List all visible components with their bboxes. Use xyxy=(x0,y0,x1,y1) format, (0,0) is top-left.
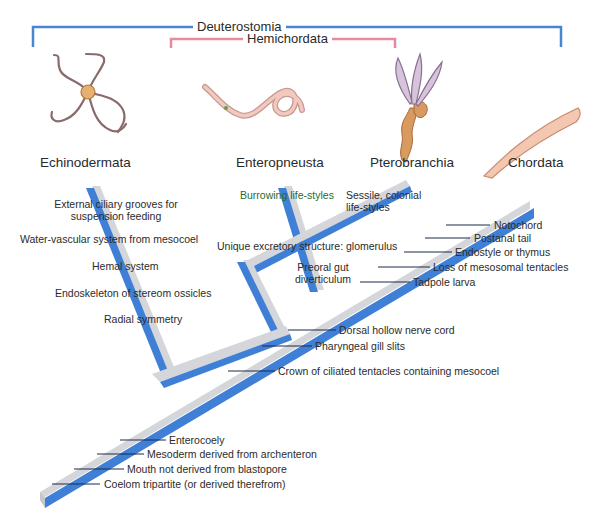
char-water-vascular-system: Water-vascular system from mesocoel xyxy=(20,233,198,245)
char-loss-mesosomal-tentacles: Loss of mesosomal tentacles xyxy=(433,261,568,273)
char-mesoderm-archenteron: Mesoderm derived from archenteron xyxy=(147,448,317,460)
deuterostome-cladogram: Deuterostomia Hemichordata Echinodermata… xyxy=(0,0,594,521)
taxon-chordata: Chordata xyxy=(508,155,564,170)
taxon-pterobranchia: Pterobranchia xyxy=(370,155,454,170)
hemichordata-stem xyxy=(237,260,286,334)
char-external-ciliary-grooves: External ciliary grooves for suspension … xyxy=(30,198,202,222)
char-sessile-colonial: Sessile, colonial life-styles xyxy=(346,189,421,213)
char-hemal-system: Hemal system xyxy=(92,260,159,272)
brittle-star-illustration xyxy=(52,54,127,132)
char-line: External ciliary grooves for xyxy=(30,198,202,210)
char-crown-ciliated-tentacles: Crown of ciliated tentacles containing m… xyxy=(278,365,499,377)
char-pharyngeal-gill-slits: Pharyngeal gill slits xyxy=(315,340,405,352)
char-preoral-gut-diverticulum: Preoral gut diverticulum xyxy=(288,261,358,285)
char-dorsal-hollow-nerve-cord: Dorsal hollow nerve cord xyxy=(339,324,455,336)
taxon-enteropneusta: Enteropneusta xyxy=(236,155,324,170)
pterobranch-illustration xyxy=(396,54,442,162)
char-line: diverticulum xyxy=(288,273,358,285)
char-mouth-not-blastopore: Mouth not derived from blastopore xyxy=(127,463,287,475)
char-line: suspension feeding xyxy=(30,210,202,222)
char-line: Sessile, colonial xyxy=(346,189,421,201)
char-glomerulus: Unique excretory structure: glomerulus xyxy=(217,240,397,252)
taxon-echinodermata: Echinodermata xyxy=(40,155,131,170)
char-line: Preoral gut xyxy=(288,261,358,273)
char-postanal-tail: Postanal tail xyxy=(474,232,531,244)
char-radial-symmetry: Radial symmetry xyxy=(104,313,182,325)
acorn-worm-illustration xyxy=(205,87,302,116)
char-endostyle-thymus: Endostyle or thymus xyxy=(455,246,550,258)
char-enterocoely: Enterocoely xyxy=(169,434,224,446)
clade-label-hemichordata: Hemichordata xyxy=(243,31,332,46)
char-endoskeleton-stereom: Endoskeleton of stereom ossicles xyxy=(55,287,211,299)
char-notochord: Notochord xyxy=(494,219,542,231)
char-tadpole-larva: Tadpole larva xyxy=(413,276,475,288)
char-line: life-styles xyxy=(346,201,421,213)
char-burrowing-life-styles: Burrowing life-styles xyxy=(240,189,334,201)
char-coelom-tripartite: Coelom tripartite (or derived therefrom) xyxy=(104,478,285,490)
